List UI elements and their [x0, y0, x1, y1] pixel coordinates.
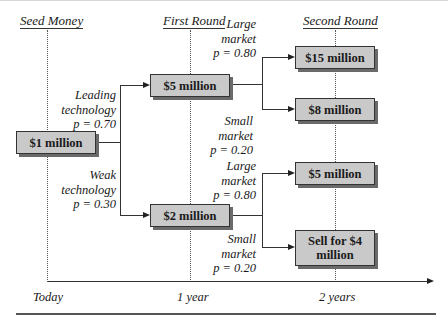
connector-small-bottom — [262, 247, 289, 248]
timeline-label-2-years: 2 years — [319, 290, 355, 305]
timeline-label-1-year: 1 year — [177, 290, 209, 305]
arrow-icon — [288, 106, 295, 112]
branch-label-small-top: Small market p = 0.20 — [200, 114, 253, 158]
connector-large-top — [262, 57, 289, 58]
top-rule — [0, 0, 448, 1]
connector-small-top — [262, 109, 289, 110]
arrow-icon — [288, 54, 295, 60]
branch-label-weak: Weak technology p = 0.30 — [60, 168, 116, 212]
timeline-label-today: Today — [33, 290, 63, 305]
arrow-icon — [143, 82, 150, 88]
connector-first-high-split — [262, 57, 263, 110]
heading-seed-money: Seed Money — [20, 13, 83, 29]
node-first-low: $2 million — [150, 204, 230, 227]
heading-second-round: Second Round — [303, 13, 378, 29]
arrow-icon — [143, 212, 150, 218]
connector-root-split — [120, 85, 121, 216]
connector-first-low — [230, 215, 262, 216]
node-second-sell-4m: Sell for $4 million — [295, 230, 375, 266]
node-second-15m: $15 million — [295, 46, 375, 69]
branch-label-large-bottom: Large market p = 0.80 — [200, 159, 256, 203]
branch-label-leading: Leading technology p = 0.70 — [60, 88, 116, 132]
node-root: $1 million — [16, 131, 96, 154]
connector-weak — [120, 215, 144, 216]
connector-leading — [120, 85, 144, 86]
branch-label-small-bottom: Small market p = 0.20 — [200, 232, 256, 276]
timeline-guide-1-year — [190, 30, 191, 282]
arrow-icon — [427, 278, 434, 284]
branch-label-large-top: Large market p = 0.80 — [200, 17, 256, 61]
connector-large-bottom — [262, 173, 289, 174]
connector-first-high — [230, 84, 262, 85]
timeline-guide-today — [47, 30, 48, 282]
arrow-icon — [288, 170, 295, 176]
node-first-high: $5 million — [150, 74, 230, 97]
timeline-axis — [48, 281, 428, 282]
node-second-5m: $5 million — [295, 162, 375, 185]
arrow-icon — [288, 244, 295, 250]
connector-first-low-split — [262, 173, 263, 248]
bottom-rule — [16, 313, 436, 315]
node-second-8m: $8 million — [295, 98, 375, 121]
connector-root — [96, 142, 120, 143]
